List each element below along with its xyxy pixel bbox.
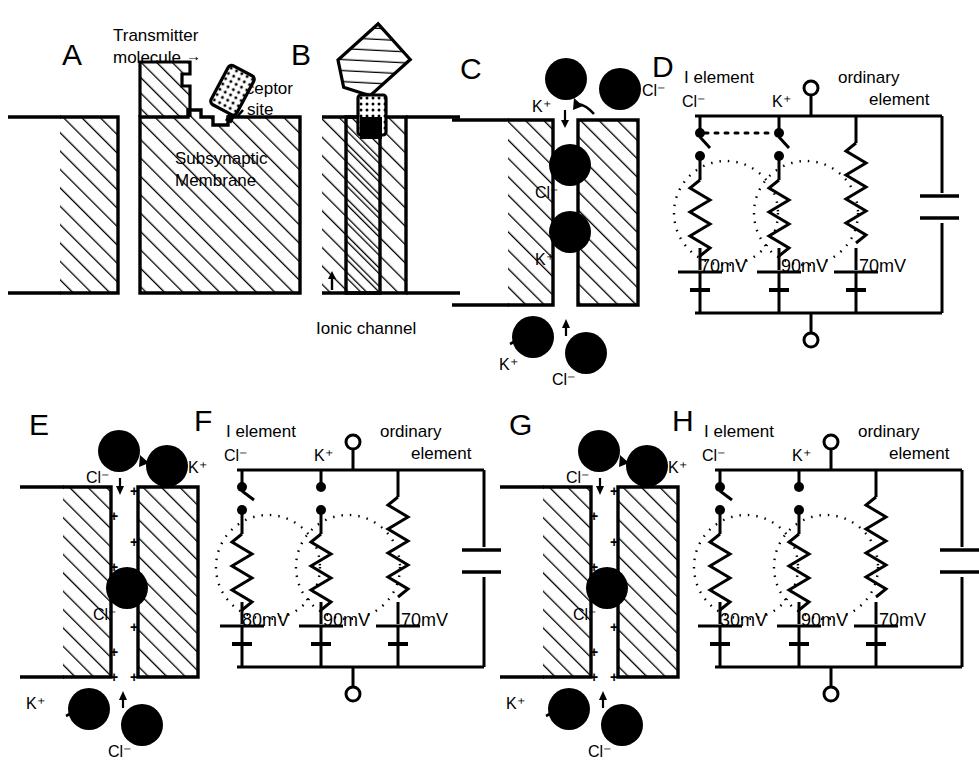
transmitter-molecule-docked: [358, 95, 386, 139]
d-bottom-terminal-circle: [804, 333, 818, 347]
e-arrow-cl-out-head: [119, 691, 127, 700]
ion-label-cl-bottom-g: Cl⁻: [588, 742, 611, 761]
f-bottom-terminal-circle: [346, 687, 360, 701]
e-charge-1: +: [130, 484, 138, 498]
ion-k-topright-e: [146, 445, 188, 487]
receptor-block-rotated: [328, 24, 411, 105]
f-branch-cl: [220, 470, 264, 667]
ion-k-bottom-e: [68, 688, 110, 730]
g-arrow-cl-out-head: [599, 691, 607, 700]
g-charge-3: +: [610, 535, 618, 549]
ion-cl-top-e: [98, 430, 140, 472]
ionic-channel-arrowhead: [328, 271, 336, 279]
arrow-cl-out-head: [562, 319, 570, 328]
ion-label-cl-bottom: Cl⁻: [552, 370, 575, 389]
f-branch-ordinary: [376, 470, 420, 667]
e-charge-8: +: [110, 670, 118, 684]
ion-k-top: [545, 58, 587, 100]
panel-c: C: [452, 48, 642, 393]
e-arrow-cl-in-head: [116, 486, 124, 495]
ion-cl-topright: [599, 68, 641, 110]
g-charge-5: +: [610, 620, 618, 634]
membrane-left-c: [452, 120, 553, 305]
ion-label-cl-bottom-e: Cl⁻: [108, 742, 131, 761]
d-branch-ordinary: [834, 116, 878, 313]
arrow-k-in-head: [561, 120, 569, 128]
membrane-right-c: [578, 120, 638, 305]
panel-b-graphics: [270, 0, 470, 340]
panel-g: G: [500, 402, 690, 762]
d-top-terminal-circle: [804, 81, 818, 95]
ion-k-bottom-g: [548, 688, 590, 730]
h-branch-cl: [698, 470, 742, 667]
h-top-terminal-circle: [824, 435, 838, 449]
ion-label-k-bottom-e: K⁺: [26, 694, 45, 713]
membrane-left-e: [20, 487, 111, 677]
panel-h: H I element ordinary element Cl⁻ K⁺ 30mV…: [668, 402, 979, 722]
h-branch-ordinary: [854, 470, 898, 667]
d-branch-cl: [678, 116, 722, 313]
transmitter-molecule: [206, 64, 256, 124]
e-charge-7: +: [130, 670, 138, 684]
panel-f-circuit: [190, 402, 501, 722]
panel-e: E: [20, 402, 210, 762]
g-charge-6: +: [590, 645, 598, 659]
e-charge-6: +: [110, 645, 118, 659]
membrane-block-b: [346, 117, 460, 293]
ion-label-cl-channel: Cl⁻: [535, 183, 558, 202]
ion-label-k-bottom-g: K⁺: [506, 694, 525, 713]
membrane-left-g: [500, 487, 591, 677]
ion-label-cl-top-g: Cl⁻: [566, 468, 589, 487]
ion-cl-channel: [549, 144, 591, 186]
receptor-block: [140, 62, 190, 117]
d-branch-k: [757, 116, 801, 313]
ion-cl-bottom-e: [121, 704, 163, 746]
ion-label-cl-channel-e: Cl⁻: [93, 605, 116, 624]
f-top-terminal-circle: [346, 435, 360, 449]
g-charge-7: +: [610, 670, 618, 684]
panel-h-circuit: [668, 402, 979, 722]
ion-k-channel: [549, 211, 591, 253]
ion-label-cl-channel-g: Cl⁻: [573, 605, 596, 624]
ion-label-cl-top-e: Cl⁻: [86, 468, 109, 487]
e-charge-4: +: [110, 560, 118, 574]
f-branch-k: [299, 470, 343, 667]
ion-cl-top-g: [578, 430, 620, 472]
e-charge-5: +: [130, 620, 138, 634]
panel-d: D I element ordinary element Cl⁻ K⁺ 70mV…: [648, 48, 959, 368]
panel-d-circuit: [648, 48, 959, 368]
panel-b: B Ionic channel: [270, 0, 470, 340]
ion-label-k-top: K⁺: [532, 97, 551, 116]
ion-cl-bottom: [565, 332, 607, 374]
ion-label-k-bottom: K⁺: [499, 355, 518, 374]
g-charge-1: +: [610, 484, 618, 498]
g-charge-4: +: [590, 560, 598, 574]
h-branch-k: [777, 470, 821, 667]
g-charge-2: +: [590, 509, 598, 523]
ion-k-bottom: [512, 316, 554, 358]
panel-f: F I element ordinary element Cl⁻ K⁺ 80mV…: [190, 402, 501, 722]
membrane-block-left: [8, 117, 118, 293]
ion-cl-bottom-g: [601, 704, 643, 746]
e-charge-2: +: [110, 509, 118, 523]
e-charge-3: +: [130, 535, 138, 549]
g-arrow-cl-in-head: [596, 486, 604, 495]
h-bottom-terminal-circle: [824, 687, 838, 701]
ion-label-k-channel: K⁺: [535, 250, 554, 269]
ion-k-topright-g: [626, 445, 668, 487]
g-charge-8: +: [590, 670, 598, 684]
